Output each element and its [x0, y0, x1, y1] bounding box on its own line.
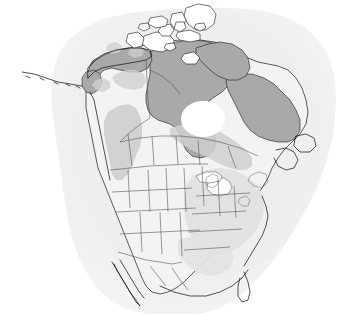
north-america-range-map [0, 0, 342, 316]
range-map-figure [0, 0, 342, 316]
hudson-bay-water-core [188, 105, 218, 129]
